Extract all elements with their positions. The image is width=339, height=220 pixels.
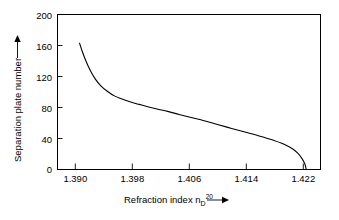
y-tick-label-160: 160: [36, 41, 52, 52]
y-tick-label-200: 200: [36, 10, 52, 21]
chart-figure: 200 160 120 80 40 0 1.390 1.398 1.406 1.…: [0, 0, 339, 220]
x-tick-label-1414: 1.414: [234, 173, 258, 184]
chart-svg: 200 160 120 80 40 0 1.390 1.398 1.406 1.…: [0, 0, 339, 220]
x-tick-label-1422: 1.422: [291, 173, 315, 184]
y-tick-label-80: 80: [41, 103, 52, 114]
x-axis-title-sub: D: [201, 200, 206, 207]
y-tick-label-0: 0: [47, 164, 52, 175]
x-axis-title-sup: 20: [206, 193, 214, 200]
x-axis-title-main: Refraction index n: [124, 194, 201, 205]
y-tick-label-40: 40: [41, 134, 52, 145]
x-axis-title: Refraction index nD20: [124, 193, 213, 207]
y-tick-label-120: 120: [36, 72, 52, 83]
y-axis-title: Separation plate number: [12, 58, 23, 162]
x-tick-label-1398: 1.398: [120, 173, 144, 184]
x-tick-label-1406: 1.406: [177, 173, 201, 184]
x-tick-label-1390: 1.390: [63, 173, 87, 184]
